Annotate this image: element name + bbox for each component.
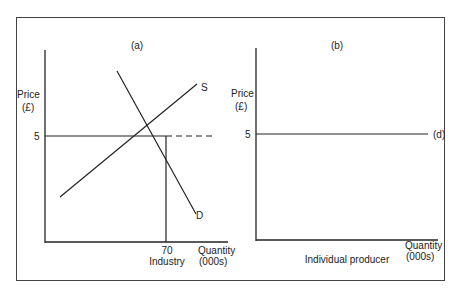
panel-b-y-tick: 5 <box>245 129 251 140</box>
panel-a-x-tick: 70 <box>161 245 172 256</box>
demand-label: D <box>196 210 203 221</box>
panel-a-x-caption: Industry <box>149 256 185 267</box>
supply-label: S <box>201 82 208 93</box>
panel-a-x-unit: (000s) <box>199 256 227 267</box>
panel-b-y-label: Price <box>231 88 254 99</box>
panel-b-x-caption: Individual producer <box>305 254 390 265</box>
panel-b-demand-label: (d) <box>433 129 445 140</box>
panel-b-x-label: Quantity <box>405 240 442 251</box>
panel-b-x-unit: (000s) <box>406 251 434 262</box>
supply-curve <box>60 84 197 197</box>
panel-a-y-unit: (£) <box>22 102 34 113</box>
demand-curve <box>117 71 196 214</box>
panel-a-title: (a) <box>131 40 143 51</box>
panel-b-title: (b) <box>331 40 343 51</box>
panel-a-x-label: Quantity <box>198 245 235 256</box>
panel-b-y-unit: (£) <box>235 101 247 112</box>
panel-a-y-label: Price <box>17 89 40 100</box>
panel-a-y-tick: 5 <box>34 131 40 142</box>
